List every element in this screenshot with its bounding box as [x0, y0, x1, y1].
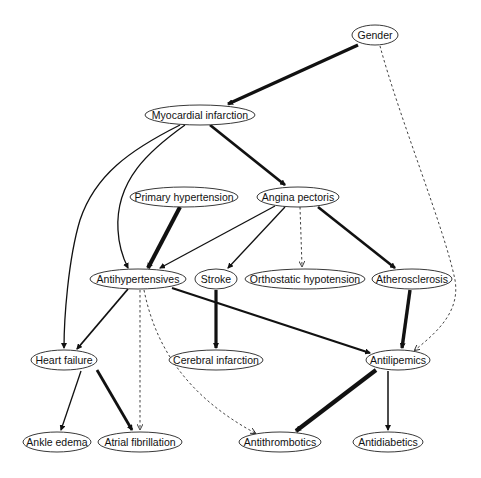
edge-mi-angina [210, 125, 285, 185]
edge-gender-antilipemics [380, 46, 456, 350]
edge-angina-orthostatic [300, 207, 302, 266]
node-gender: Gender [352, 25, 398, 45]
node-label: Atherosclerosis [376, 273, 448, 285]
node-ae: Ankle edema [23, 432, 91, 452]
node-hf: Heart failure [31, 350, 97, 370]
edge-antihypertensives-antilipemics [172, 288, 370, 353]
node-ph: Primary hypertension [130, 187, 238, 207]
edge-atherosclerosis-antilipemics [402, 290, 410, 348]
node-adia: Antidiabetics [353, 432, 423, 452]
node-ap: Angina pectoris [257, 187, 339, 207]
node-athr: Antithrombotics [239, 432, 321, 452]
node-ath: Atherosclerosis [372, 269, 452, 289]
node-label: Heart failure [35, 354, 92, 366]
node-label: Myocardial infarction [152, 109, 248, 121]
edge-ph-antihypertensives [148, 207, 180, 268]
node-label: Orthostatic hypotension [250, 273, 360, 285]
node-label: Antidiabetics [358, 436, 418, 448]
node-label: Primary hypertension [134, 191, 233, 203]
edge-antilipemics-antithrombotics [296, 370, 376, 431]
directed-graph: GenderMyocardial infarctionPrimary hyper… [0, 0, 481, 478]
node-alip: Antilipemics [366, 350, 430, 370]
node-label: Gender [357, 29, 393, 41]
node-label: Antihypertensives [97, 273, 180, 285]
node-label: Stroke [201, 273, 232, 285]
node-label: Antilipemics [370, 354, 426, 366]
node-ci: Cerebral infarction [169, 350, 263, 370]
edge-heartfailure-atrialfib [97, 370, 132, 430]
edge-angina-atherosclerosis [318, 207, 395, 268]
node-label: Cerebral infarction [173, 354, 259, 366]
node-ahyp: Antihypertensives [90, 269, 186, 289]
node-label: Ankle edema [26, 436, 87, 448]
edge-gender-mi [228, 45, 358, 104]
node-af: Atrial fibrillation [98, 432, 182, 452]
edge-heartfailure-ankleedema [61, 371, 81, 430]
edges-layer [61, 45, 456, 433]
node-label: Antithrombotics [244, 436, 316, 448]
edge-antihypertensives-heartfailure [77, 289, 128, 349]
node-mi: Myocardial infarction [145, 105, 255, 125]
node-oh: Orthostatic hypotension [245, 269, 365, 289]
node-label: Angina pectoris [262, 191, 334, 203]
node-label: Atrial fibrillation [104, 436, 175, 448]
node-stroke: Stroke [195, 269, 237, 289]
